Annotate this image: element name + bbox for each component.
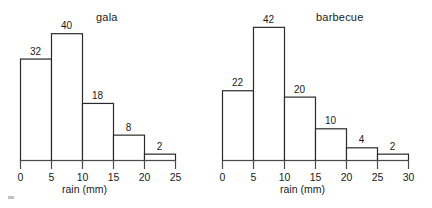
bar-value-label: 10 — [318, 115, 344, 126]
x-tick-label: 30 — [398, 172, 420, 183]
corner-artifact — [8, 196, 14, 199]
histogram-bar — [83, 103, 114, 160]
histogram-bar — [145, 154, 176, 160]
x-tick-label: 25 — [367, 172, 389, 183]
x-tick-label: 15 — [103, 172, 125, 183]
x-tick-label: 10 — [72, 172, 94, 183]
bar-value-label: 2 — [380, 141, 406, 152]
x-tick-label: 0 — [212, 172, 234, 183]
histogram-bar — [347, 148, 378, 161]
histogram-bar — [52, 34, 83, 161]
x-axis-label-gala: rain (mm) — [62, 183, 107, 195]
x-tick-label: 25 — [165, 172, 187, 183]
bar-value-label: 18 — [85, 90, 111, 101]
axis-group-gala — [20, 160, 176, 169]
x-tick-label: 5 — [41, 172, 63, 183]
bar-value-label: 8 — [116, 122, 142, 133]
x-tick-label: 10 — [274, 172, 296, 183]
x-tick-label: 20 — [134, 172, 156, 183]
histogram-bar — [285, 97, 316, 160]
histogram-bar — [223, 91, 254, 161]
x-axis-label-barbecue: rain (mm) — [280, 183, 325, 195]
axis-group-barbecue — [222, 160, 409, 169]
histogram-bar — [378, 154, 409, 160]
bar-value-label: 32 — [23, 46, 49, 57]
bar-value-label: 2 — [147, 141, 173, 152]
histogram-bar — [254, 27, 285, 160]
bar-value-label: 22 — [225, 77, 251, 88]
bar-value-label: 4 — [349, 134, 375, 145]
histogram-gala: gala 0510152025 32401882 rain (mm) — [0, 0, 216, 208]
bar-value-label: 40 — [54, 20, 80, 31]
histogram-bar — [316, 129, 347, 161]
x-tick-label: 5 — [243, 172, 265, 183]
x-tick-label: 15 — [305, 172, 327, 183]
bar-value-label: 20 — [287, 84, 313, 95]
x-tick-label: 20 — [336, 172, 358, 183]
x-tick-label: 0 — [10, 172, 32, 183]
bar-value-label: 42 — [256, 14, 282, 25]
histogram-barbecue: barbecue 051015202530 2242201042 rain (m… — [216, 0, 432, 208]
histogram-bar — [21, 59, 52, 160]
histogram-bar — [114, 135, 145, 160]
